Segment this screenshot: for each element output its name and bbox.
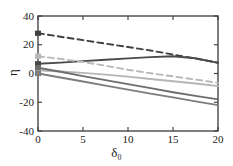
x-axis-label-text: δ₀ xyxy=(111,145,122,160)
ytick-label-20: 20 xyxy=(6,39,34,50)
xtick-label-10: 10 xyxy=(118,134,138,145)
series-marker-medium-gray-solid xyxy=(35,65,41,70)
xtick-label-20: 20 xyxy=(208,134,228,145)
x-axis-label: δ₀ xyxy=(0,146,233,159)
xtick-label-15: 15 xyxy=(163,134,183,145)
xtick-label-5: 5 xyxy=(73,134,93,145)
series-marker-dark-dashed-upper xyxy=(35,31,41,36)
series-marker-dark-gray-solid-lower xyxy=(35,71,41,76)
figure-container: 40 20 0 -20 -40 0 5 10 15 20 η δ₀ xyxy=(0,0,233,166)
ytick-label-neg20: -20 xyxy=(2,97,34,108)
ytick-label-40: 40 xyxy=(6,11,34,22)
xtick-label-0: 0 xyxy=(28,134,48,145)
series-marker-light-gray-dashed xyxy=(35,54,41,59)
y-axis-label: η xyxy=(6,58,19,88)
